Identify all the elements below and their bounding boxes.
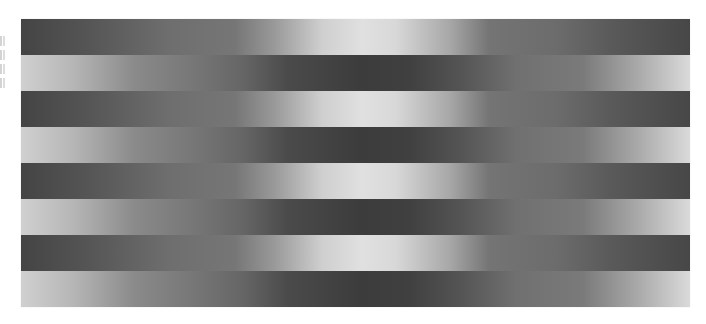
- band-light-edges: [21, 55, 690, 91]
- text-fragment: [0, 64, 5, 74]
- text-fragment: [0, 36, 5, 46]
- band-light-edges: [21, 127, 690, 163]
- band-dark-edges: [21, 163, 690, 199]
- band-dark-edges: [21, 19, 690, 55]
- text-fragment: [0, 50, 5, 60]
- gradient-stripes-image: [21, 19, 690, 307]
- band-light-edges: [21, 271, 690, 307]
- band-dark-edges: [21, 235, 690, 271]
- text-fragment: [0, 78, 5, 88]
- clipped-edge-text: [0, 36, 5, 91]
- band-light-edges: [21, 199, 690, 235]
- band-dark-edges: [21, 91, 690, 127]
